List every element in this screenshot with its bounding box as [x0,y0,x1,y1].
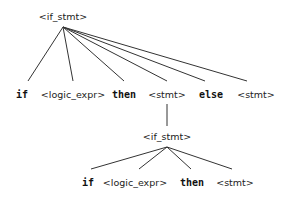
edge-root-else [63,27,205,81]
edge-nested-logic-expr [139,147,167,169]
edge-root-stmt-2 [63,27,247,81]
node-nested-if: if [82,177,94,188]
edge-nested-stmt [167,147,232,169]
root-edges [28,27,247,81]
node-then: then [112,89,136,100]
node-logic-expr: <logic_expr> [41,89,105,100]
node-stmt: <stmt> [148,89,186,100]
node-else: else [199,89,223,100]
edge-nested-if [91,147,167,169]
nested-edges [91,147,232,169]
parse-tree-svg: <if_stmt> if <logic_expr> then <stmt> el… [0,0,283,198]
node-nested-if-stmt: <if_stmt> [143,131,191,142]
node-stmt-2: <stmt> [237,89,275,100]
node-nested-stmt: <stmt> [216,177,254,188]
edge-root-if [28,27,63,81]
parse-tree-diagram: <if_stmt> if <logic_expr> then <stmt> el… [0,0,283,198]
node-if: if [16,89,28,100]
node-nested-logic-expr: <logic_expr> [103,177,167,188]
node-nested-then: then [180,177,204,188]
edge-nested-then [167,147,191,169]
node-root-if-stmt: <if_stmt> [39,11,87,22]
